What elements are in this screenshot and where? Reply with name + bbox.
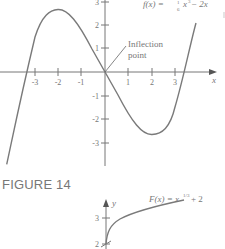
svg-text:Inflection: Inflection — [128, 39, 163, 49]
svg-text:3: 3 — [95, 0, 99, 7]
svg-text:-3: -3 — [32, 78, 39, 87]
chart1-formula: f(x) = 1 6 x 3 − 2x — [143, 0, 208, 12]
svg-text:-3: -3 — [92, 139, 99, 148]
cube-root-curve — [106, 200, 184, 244]
svg-text:− 2x: − 2x — [191, 0, 208, 9]
svg-text:-2: -2 — [92, 115, 99, 124]
inflection-annotation: Inflection point — [128, 39, 163, 60]
figure-caption: FIGURE 14 — [2, 177, 71, 192]
chart2-formula: F(x) = x 1/3 + 2 — [148, 193, 203, 204]
svg-text:2: 2 — [95, 21, 99, 30]
svg-text:3: 3 — [95, 214, 99, 223]
svg-text:-1: -1 — [78, 78, 85, 87]
svg-text:2: 2 — [95, 240, 99, 249]
svg-text:x: x — [182, 0, 187, 9]
x-axis-label: x — [211, 75, 216, 85]
svg-text:6: 6 — [177, 7, 180, 12]
svg-text:2: 2 — [150, 78, 154, 87]
figure-canvas: -3 -2 -1 1 2 3 3 2 1 -1 -2 -3 x Inflecti… — [0, 0, 225, 249]
svg-text:-1: -1 — [92, 92, 99, 101]
chart1-tick-labels: -3 -2 -1 1 2 3 3 2 1 -1 -2 -3 x — [32, 0, 216, 148]
svg-text:1: 1 — [126, 78, 130, 87]
y-axis-arrow-icon — [103, 199, 109, 207]
svg-text:+ 2: + 2 — [191, 194, 203, 204]
svg-text:1: 1 — [95, 44, 99, 53]
svg-text:-2: -2 — [55, 78, 62, 87]
inflection-pointer — [105, 46, 126, 72]
svg-text:1: 1 — [177, 0, 180, 5]
svg-text:F(x) = x: F(x) = x — [148, 194, 179, 204]
svg-text:y: y — [111, 198, 116, 208]
svg-text:f(x) =: f(x) = — [143, 0, 164, 9]
svg-text:3: 3 — [173, 78, 177, 87]
svg-text:point: point — [128, 50, 147, 60]
svg-text:1/3: 1/3 — [183, 193, 190, 198]
